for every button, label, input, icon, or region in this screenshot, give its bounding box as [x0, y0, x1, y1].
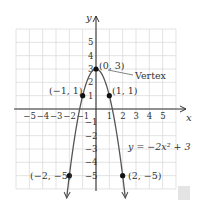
x-tick-label: 3	[133, 111, 138, 121]
data-point	[120, 173, 125, 178]
y-tick-label: 5	[88, 37, 93, 47]
axes: x y	[14, 12, 192, 191]
y-tick-label: −1	[85, 117, 98, 127]
y-tick-label: 4	[88, 51, 93, 61]
point-label-neg2: (−2, −5)	[30, 170, 71, 181]
y-tick-label: −5	[85, 171, 98, 181]
x-tick-label: −2	[63, 111, 76, 121]
y-tick-label: −3	[85, 144, 98, 154]
point-label-pos2: (2, −5)	[128, 170, 162, 181]
y-tick-label: 1	[88, 91, 93, 101]
y-tick-label: −2	[85, 131, 98, 141]
point-label-pos1: (1, 1)	[112, 85, 138, 96]
data-point	[93, 66, 98, 71]
y-tick-label: −4	[85, 157, 98, 167]
x-tick-label: −3	[50, 111, 63, 121]
x-tick-label: 2	[120, 111, 125, 121]
x-tick-label: 1	[107, 111, 112, 121]
x-tick-label: −5	[23, 111, 36, 121]
point-label-neg1: (−1, 1)	[49, 85, 83, 96]
parabola-chart: x y −5−4−3−2−11234554321−1−2−3−4−5 Verte…	[0, 0, 199, 202]
vertex-label: Vertex	[134, 70, 167, 81]
y-tick-label: 2	[88, 77, 93, 87]
x-tick-label: 4	[147, 111, 152, 121]
corner-marker	[178, 186, 190, 200]
y-axis-label: y	[85, 12, 92, 23]
curve-arrows	[64, 192, 128, 198]
x-axis-label: x	[186, 112, 192, 123]
point-label-vertex: (0, 3)	[99, 60, 125, 71]
x-tick-label: 5	[160, 111, 165, 121]
x-tick-label: −4	[37, 111, 50, 121]
equation-label: y = −2x² + 3	[127, 141, 191, 152]
